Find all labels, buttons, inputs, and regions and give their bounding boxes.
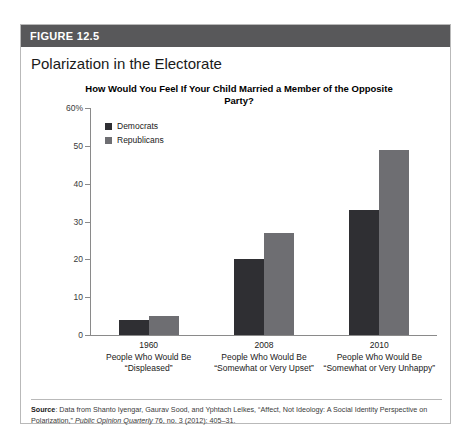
x-axis-year-label: 2010 xyxy=(309,340,449,351)
y-axis-tick-label: 50 xyxy=(51,141,83,151)
y-axis-tick-label: 30 xyxy=(51,217,83,227)
bar-1960-republicans xyxy=(149,316,179,335)
x-axis-group-2010: 2010People Who Would Be“Somewhat or Very… xyxy=(309,340,449,374)
y-axis-tick-label: 40 xyxy=(51,179,83,189)
legend-swatch-republicans xyxy=(105,137,112,144)
y-axis-tick-label: 0 xyxy=(51,330,83,340)
y-axis-tick-label: 20 xyxy=(51,254,83,264)
figure-header-bar: FIGURE 12.5 xyxy=(21,25,450,47)
bar-2010-democrats xyxy=(349,210,379,335)
x-axis-labels: 1960People Who Would Be“Displeased”2008P… xyxy=(57,340,437,380)
y-axis-tick-label: 60% xyxy=(51,103,83,113)
x-axis-line xyxy=(90,335,437,336)
bar-2008-republicans xyxy=(264,233,294,335)
source-note: Source: Data from Shanto Iyengar, Gaurav… xyxy=(31,405,446,426)
y-axis-tick xyxy=(85,184,90,185)
source-divider xyxy=(31,399,442,400)
source-journal-name: Public Opinion Quarterly xyxy=(75,416,153,425)
bar-1960-democrats xyxy=(119,320,149,335)
legend-label-republicans: Republicans xyxy=(117,135,164,145)
legend-swatch-democrats xyxy=(105,123,112,130)
y-axis-line xyxy=(90,108,91,335)
chart-title: How Would You Feel If Your Child Married… xyxy=(79,83,399,107)
legend-label-democrats: Democrats xyxy=(117,121,158,131)
y-axis-tick xyxy=(85,146,90,147)
legend-item-republicans: Republicans xyxy=(105,135,164,145)
y-axis-tick xyxy=(85,335,90,336)
figure-card: FIGURE 12.5 Polarization in the Electora… xyxy=(20,24,451,424)
y-axis-tick-label: 10 xyxy=(51,292,83,302)
chart-plot-area: 0102030405060% Democrats Republicans xyxy=(57,108,437,338)
bar-2010-republicans xyxy=(379,150,409,335)
x-axis-sublabel-line: “Somewhat or Very Unhappy” xyxy=(309,363,449,374)
y-axis-tick xyxy=(85,259,90,260)
x-axis-sublabel-line: People Who Would Be xyxy=(309,352,449,363)
source-label: Source xyxy=(31,405,55,414)
bar-2008-democrats xyxy=(234,259,264,335)
figure-number-label: FIGURE 12.5 xyxy=(30,30,99,42)
legend-item-democrats: Democrats xyxy=(105,121,164,131)
y-axis-tick xyxy=(85,222,90,223)
chart-legend: Democrats Republicans xyxy=(105,121,164,149)
y-axis-tick xyxy=(85,297,90,298)
source-text-part2: 76, no. 3 (2012): 405–31. xyxy=(153,416,236,425)
y-axis-tick xyxy=(85,108,90,109)
page-title: Polarization in the Electorate xyxy=(31,55,222,72)
